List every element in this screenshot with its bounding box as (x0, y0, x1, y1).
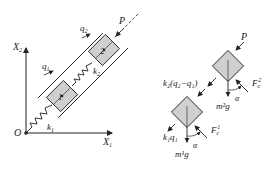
mass-1-label: 1 (58, 92, 63, 102)
spring-k2 (72, 63, 92, 86)
mass-2-label: 2 (100, 46, 105, 56)
fbd-friction-1-arrow (195, 126, 207, 138)
fbd-p-arrow (236, 42, 244, 50)
fbd-spring-force-arrow (168, 124, 175, 131)
left-system-diagram: X2 X1 O k1 k2 q1 q2 P 1 2 (12, 14, 138, 148)
fbd-spring-force-label: k₁q₁ (163, 132, 178, 142)
k2-label: k2 (93, 66, 100, 77)
lower-rail (58, 48, 128, 118)
fbd-angle-1-label: α (193, 141, 198, 150)
origin-label: O (14, 127, 21, 138)
fbd-weight-2-label: m²g (216, 101, 230, 111)
mechanics-diagram: X2 X1 O k1 k2 q1 q2 P 1 2 P k₂(q₂−q₁) Fc… (0, 0, 276, 169)
fbd-p-label: P (240, 31, 247, 42)
x2-label: X2 (12, 41, 22, 53)
k1-label: k1 (47, 122, 54, 133)
fbd-friction-2-arrow (236, 80, 248, 92)
fbd-coupling-label: k₂(q₂−q₁) (163, 78, 197, 88)
x1-label: X1 (102, 136, 112, 148)
free-body-diagrams: P k₂(q₂−q₁) Fc2 m²g α k₁q₁ Fc1 m¹g α (163, 31, 261, 159)
fbd-friction-1-label: Fc1 (210, 124, 220, 136)
fbd-coupling-arrow-2 (208, 78, 216, 86)
q2-label: q2 (80, 23, 88, 34)
force-p-label: P (118, 15, 125, 26)
q1-label: q1 (42, 61, 50, 72)
q2-arrow (82, 34, 90, 38)
fbd-coupling-arrow-1 (198, 89, 205, 96)
fbd-weight-1-label: m¹g (175, 149, 189, 159)
fbd-angle-2-label: α (235, 94, 240, 103)
fbd-friction-2-label: Fc2 (251, 77, 261, 89)
